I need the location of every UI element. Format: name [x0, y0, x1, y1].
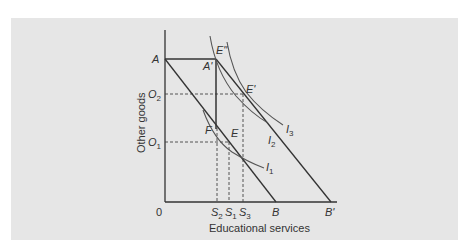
label-o1: O1: [148, 136, 162, 151]
label-a: A: [151, 53, 159, 65]
label-s3: S3: [239, 206, 251, 221]
label-a-prime: A': [202, 60, 213, 72]
budget-line-ab: [165, 59, 276, 202]
y-axis-title: Other goods: [135, 92, 147, 153]
budget-constraint-diagram: A A' E" E' F E B B' O2 O1 S2 S1 S3 I1 I2…: [0, 0, 468, 250]
label-origin: 0: [156, 206, 162, 218]
x-axis-title: Educational services: [209, 222, 310, 234]
label-o2: O2: [148, 88, 162, 103]
label-i3: I3: [286, 123, 294, 138]
label-i1: I1: [266, 161, 274, 176]
label-s1: S1: [225, 206, 237, 221]
label-e: E: [231, 127, 239, 139]
label-e-double-prime: E": [216, 44, 228, 56]
label-b: B: [272, 206, 279, 218]
label-b-prime: B': [325, 206, 335, 218]
label-e-prime: E': [246, 83, 256, 95]
label-i2: I2: [268, 134, 276, 149]
label-s2: S2: [211, 206, 223, 221]
